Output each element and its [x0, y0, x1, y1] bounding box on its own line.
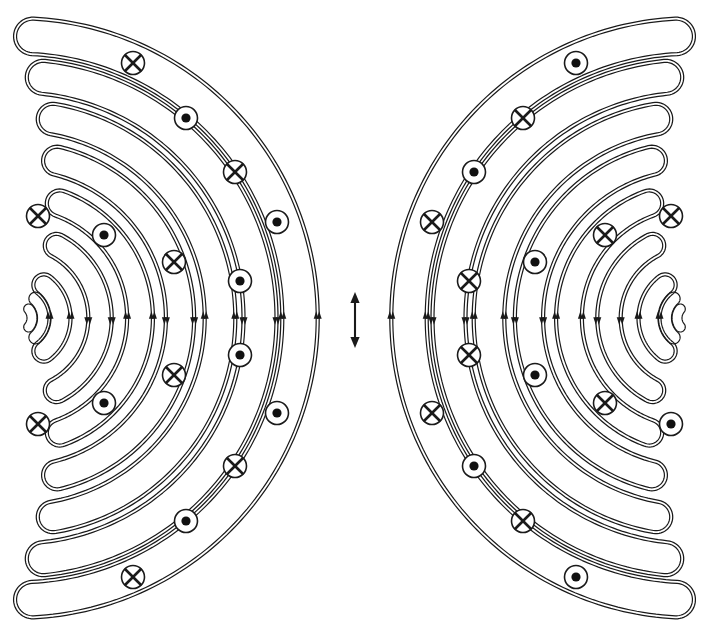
dot-center	[181, 516, 190, 525]
current-into-page-symbol	[122, 52, 145, 75]
current-out-of-page-symbol	[175, 510, 198, 533]
dot-center	[469, 461, 478, 470]
figure-root: Poloidal magnetic field line cross-secti…	[0, 0, 709, 640]
current-out-of-page-symbol	[565, 566, 588, 589]
current-into-page-symbol	[27, 205, 50, 228]
current-out-of-page-symbol	[463, 455, 486, 478]
current-into-page-symbol	[163, 364, 186, 387]
current-into-page-symbol	[594, 224, 617, 247]
current-out-of-page-symbol	[660, 413, 683, 436]
current-out-of-page-symbol	[565, 52, 588, 75]
dot-center	[530, 370, 539, 379]
current-out-of-page-symbol	[93, 224, 116, 247]
dot-center	[99, 398, 108, 407]
dot-center	[272, 217, 281, 226]
dot-center	[235, 276, 244, 285]
current-into-page-symbol	[660, 205, 683, 228]
current-into-page-symbol	[224, 161, 247, 184]
current-into-page-symbol	[458, 344, 481, 367]
current-into-page-symbol	[421, 211, 444, 234]
current-out-of-page-symbol	[175, 107, 198, 130]
dot-center	[235, 350, 244, 359]
current-out-of-page-symbol	[524, 364, 547, 387]
dot-center	[571, 572, 580, 581]
magnetic-field-diagram	[0, 0, 709, 640]
current-into-page-symbol	[163, 251, 186, 274]
current-into-page-symbol	[512, 510, 535, 533]
dot-center	[181, 113, 190, 122]
current-out-of-page-symbol	[266, 211, 289, 234]
dot-center	[571, 58, 580, 67]
current-into-page-symbol	[224, 455, 247, 478]
current-out-of-page-symbol	[463, 161, 486, 184]
dot-center	[530, 257, 539, 266]
dot-center	[666, 419, 675, 428]
current-out-of-page-symbol	[524, 251, 547, 274]
current-into-page-symbol	[594, 392, 617, 415]
current-into-page-symbol	[122, 566, 145, 589]
current-out-of-page-symbol	[229, 270, 252, 293]
current-out-of-page-symbol	[229, 344, 252, 367]
current-into-page-symbol	[421, 402, 444, 425]
current-out-of-page-symbol	[266, 402, 289, 425]
current-into-page-symbol	[27, 413, 50, 436]
dot-center	[272, 408, 281, 417]
current-out-of-page-symbol	[93, 392, 116, 415]
current-into-page-symbol	[512, 107, 535, 130]
current-into-page-symbol	[458, 270, 481, 293]
dot-center	[99, 230, 108, 239]
dot-center	[469, 167, 478, 176]
